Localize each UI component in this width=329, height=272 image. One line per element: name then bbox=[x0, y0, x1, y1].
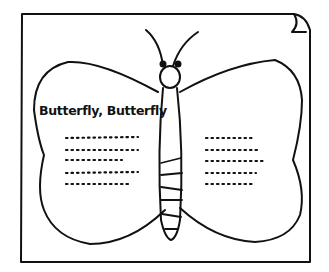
worksheet-title: Butterfly, Butterfly bbox=[39, 103, 167, 118]
page-curl-icon bbox=[292, 14, 306, 32]
page-frame bbox=[21, 14, 310, 262]
body-stripes bbox=[161, 158, 182, 229]
butterfly-head bbox=[160, 66, 180, 88]
right-wing bbox=[180, 60, 302, 242]
butterfly-drawing bbox=[0, 0, 329, 272]
right-wing-text-lines bbox=[206, 138, 266, 184]
left-wing-text-lines bbox=[66, 137, 138, 184]
left-antenna bbox=[146, 30, 163, 66]
left-wing bbox=[34, 62, 165, 244]
